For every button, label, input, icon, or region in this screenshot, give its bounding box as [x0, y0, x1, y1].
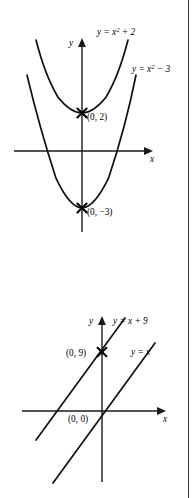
parabolas-svg: y x y = x2 + 2 y = x2 − 3 (0, 2) (0, −3) [0, 0, 196, 250]
parabola-x2-minus-3-label-tail: − 3 [154, 64, 170, 74]
line-x-plus-9-label: y = x + 9 [112, 316, 148, 326]
lines-svg: y x y = x + 9 y = x (0, 9) (0, 0) [0, 250, 196, 498]
y-axis-label: y [88, 316, 94, 326]
x-axis-label: x [149, 154, 155, 164]
lines-figure: y x y = x + 9 y = x (0, 9) (0, 0) [0, 250, 196, 498]
y-axis-label: y [68, 38, 74, 48]
origin-0-0-label: (0, 0) [68, 414, 88, 425]
parabola-x2-plus-2-label-main: y = x [96, 27, 117, 37]
figure-page: y x y = x2 + 2 y = x2 − 3 (0, 2) (0, −3) [0, 0, 196, 498]
parabola-x2-plus-2-label-tail: + 2 [119, 27, 135, 37]
parabolas-figure: y x y = x2 + 2 y = x2 − 3 (0, 2) (0, −3) [0, 0, 196, 250]
vertex-0-2-label: (0, 2) [87, 112, 107, 123]
line-x-curve [53, 343, 155, 483]
parabola-x2-minus-3-label-main: y = x [131, 64, 152, 74]
vertex-0-minus-3-label: (0, −3) [87, 207, 112, 218]
y-axis-arrow-icon [98, 316, 106, 325]
x-axis-label: x [162, 414, 168, 424]
parabola-x2-minus-3-label: y = x2 − 3 [131, 63, 170, 74]
y-axis-arrow-icon [78, 38, 86, 47]
parabola-x2-plus-2-label: y = x2 + 2 [96, 26, 135, 37]
line-x-label: y = x [130, 347, 151, 357]
intercept-0-9-label: (0, 9) [66, 348, 86, 359]
